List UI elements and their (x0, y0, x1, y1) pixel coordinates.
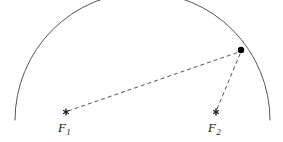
figure-container: F1 F2 (0, 0, 283, 142)
focus-label-f2: F2 (208, 121, 221, 137)
focus-label-f1-subscript: 1 (66, 127, 71, 137)
focus-label-f2-subscript: 2 (216, 127, 221, 137)
focus-label-f1-letter: F (58, 120, 66, 135)
canvas-background (0, 0, 283, 142)
focus-label-f2-letter: F (208, 120, 216, 135)
point-on-arc-dot (238, 47, 244, 53)
focus-label-f1: F1 (58, 121, 71, 137)
diagram-canvas (0, 0, 283, 142)
